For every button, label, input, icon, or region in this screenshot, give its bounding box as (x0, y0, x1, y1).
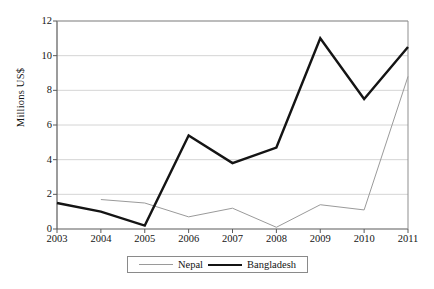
x-tick-label: 2003 (34, 233, 80, 244)
x-tick-label: 2007 (210, 233, 256, 244)
chart-legend: Nepal Bangladesh (127, 256, 308, 273)
y-tick-label: 6 (28, 120, 52, 130)
y-tick-label: 12 (28, 16, 52, 26)
legend-label-nepal: Nepal (178, 259, 203, 270)
x-tick-label: 2009 (297, 233, 343, 244)
x-tick-label: 2005 (122, 233, 168, 244)
legend-label-bangladesh: Bangladesh (247, 259, 296, 270)
gridlines (57, 21, 408, 194)
series-line-bangladesh (57, 38, 408, 225)
x-tick-label: 2011 (385, 233, 431, 244)
y-tick-label: 2 (28, 189, 52, 199)
plot-area (0, 0, 434, 289)
x-tick-label: 2010 (341, 233, 387, 244)
x-tick-label: 2004 (78, 233, 124, 244)
series-lines (57, 38, 408, 227)
y-axis-tick-labels: 12 10 8 6 4 2 0 (22, 0, 52, 289)
legend-swatch-bangladesh (208, 264, 242, 266)
y-tick-label: 10 (28, 51, 52, 61)
series-line-nepal (101, 76, 408, 227)
legend-swatch-nepal (139, 264, 173, 265)
x-tick-label: 2006 (166, 233, 212, 244)
x-tick-label: 2008 (253, 233, 299, 244)
y-tick-label: 4 (28, 155, 52, 165)
y-tick-label: 8 (28, 85, 52, 95)
line-chart: Millions US$ 12 10 8 6 4 2 0 20032004200… (0, 0, 434, 289)
